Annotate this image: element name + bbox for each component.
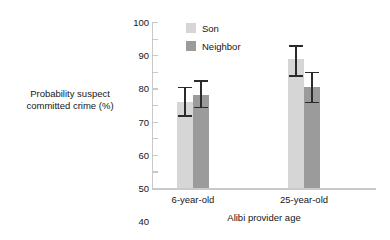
y-axis-tick-label: 50 [138,183,149,194]
y-axis-tick-label: 90 [138,50,149,61]
y-axis-tick-label: 60 [138,149,149,160]
error-bar-neighbor [193,80,209,108]
legend-swatch-neighbor-icon [186,41,196,51]
x-axis-label: Alibi provider age [152,212,376,223]
chart-legend: Son Neighbor [186,21,241,57]
legend-swatch-son-icon [186,23,196,33]
bar-neighbor [193,95,209,188]
legend-item-son: Son [186,21,241,35]
y-axis-tick: 20 [153,155,158,156]
error-bar-cap-bottom [289,75,303,77]
error-bar-stem [295,45,297,77]
y-axis-label: Probability suspect committed crime (%) [10,88,130,111]
y-axis-tick: 60 [153,88,158,89]
y-axis-tick: 40 [153,122,158,123]
legend-label-son: Son [202,23,219,34]
legend-item-neighbor: Neighbor [186,39,241,53]
error-bar-son [177,87,193,117]
y-axis-label-line-1: Probability suspect [10,88,130,100]
error-bar-stem [200,80,202,108]
error-bar-cap-bottom [194,107,208,109]
y-axis-tick: 80 [153,55,158,56]
bar-son [288,59,304,188]
y-axis-ticks: 1009080706050403020100 [152,22,153,188]
y-axis-tick-label: 100 [133,17,149,28]
y-axis-tick: 90 [153,39,158,40]
y-axis-tick: 10 [153,171,158,172]
error-bar-cap-bottom [178,115,192,117]
error-bar-stem [184,87,186,117]
y-axis-tick: 50 [153,105,158,106]
x-axis-category-label: 6-year-old [172,194,215,205]
error-bar-son [288,45,304,77]
error-bar-stem [311,72,313,104]
y-axis-tick: 0 [153,188,158,189]
bar-group [288,22,320,188]
x-axis-category-label: 25-year-old [280,194,328,205]
bar-chart-figure: Probability suspect committed crime (%) … [0,0,390,240]
x-axis-line [152,188,376,190]
legend-label-neighbor: Neighbor [202,41,241,52]
y-axis-label-line-2: committed crime (%) [10,100,130,112]
y-axis-tick: 70 [153,72,158,73]
y-axis-tick-label: 70 [138,116,149,127]
y-axis-tick-label: 40 [138,216,149,227]
error-bar-cap-bottom [305,102,319,104]
y-axis-tick: 30 [153,138,158,139]
y-axis-tick: 100 [153,22,158,23]
y-axis-tick-label: 80 [138,83,149,94]
error-bar-neighbor [304,72,320,104]
